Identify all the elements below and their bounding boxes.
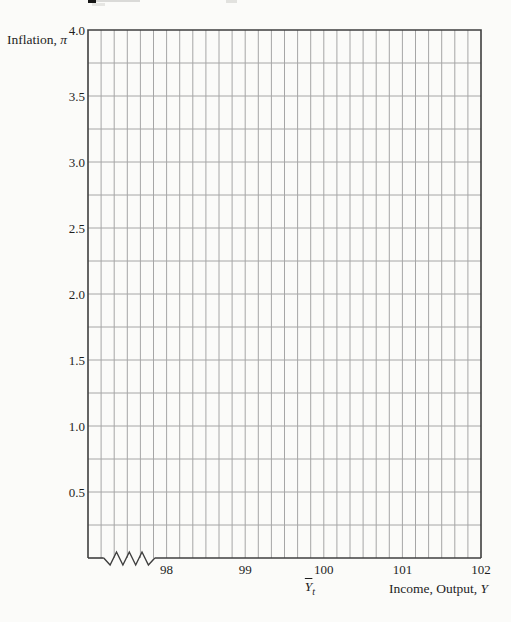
output-variable-symbol: Y <box>480 581 488 596</box>
y-axis-title-text: Inflation, <box>7 32 60 47</box>
y-axis-title: Inflation, π <box>7 32 67 48</box>
x-axis-title-text: Income, Output, <box>389 581 480 596</box>
y-bar-subscript: t <box>312 586 315 597</box>
svg-text:3.5: 3.5 <box>69 89 85 104</box>
x-axis-title: Income, Output, Y <box>389 581 488 597</box>
svg-text:99: 99 <box>239 562 252 577</box>
svg-text:2.0: 2.0 <box>69 287 85 302</box>
phillips-curve-empty-chart-figure: 98991001011024.03.53.02.52.01.51.00.5 In… <box>0 0 511 622</box>
svg-text:1.0: 1.0 <box>69 419 85 434</box>
pi-symbol: π <box>60 32 67 47</box>
svg-text:3.0: 3.0 <box>69 155 85 170</box>
chart-grid: 98991001011024.03.53.02.52.01.51.00.5 <box>0 0 511 622</box>
svg-text:1.5: 1.5 <box>69 353 85 368</box>
svg-text:101: 101 <box>393 562 413 577</box>
svg-text:98: 98 <box>160 562 173 577</box>
svg-text:100: 100 <box>314 562 334 577</box>
svg-text:102: 102 <box>471 562 491 577</box>
svg-text:4.0: 4.0 <box>69 23 85 38</box>
potential-output-label: Yt <box>289 579 331 597</box>
svg-text:2.5: 2.5 <box>69 221 85 236</box>
svg-text:0.5: 0.5 <box>69 485 85 500</box>
